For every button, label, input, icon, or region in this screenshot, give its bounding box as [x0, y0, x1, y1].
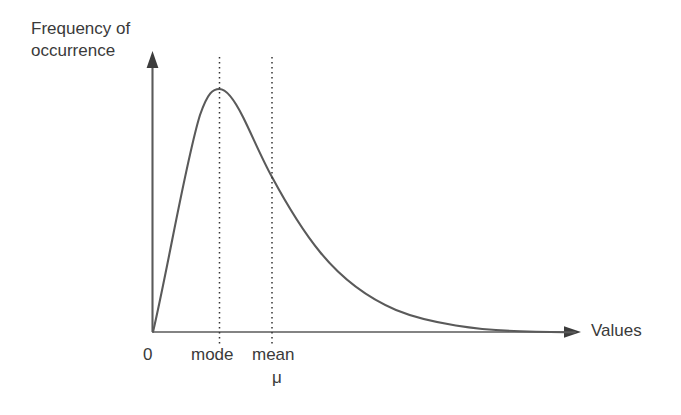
mu-symbol-label: μ [272, 367, 282, 389]
mean-annotation-label: mean [252, 344, 295, 366]
origin-tick-label: 0 [143, 344, 152, 366]
y-axis-arrowhead-icon [147, 51, 159, 68]
y-axis-label: Frequency of occurrence [31, 18, 130, 62]
y-axis [147, 51, 159, 332]
skewed-distribution-plot [0, 0, 681, 415]
chart-canvas: Frequency of occurrence Values 0 mode me… [0, 0, 681, 415]
mode-annotation-label: mode [191, 344, 234, 366]
x-axis-label: Values [591, 320, 642, 342]
distribution-curve [153, 89, 575, 332]
